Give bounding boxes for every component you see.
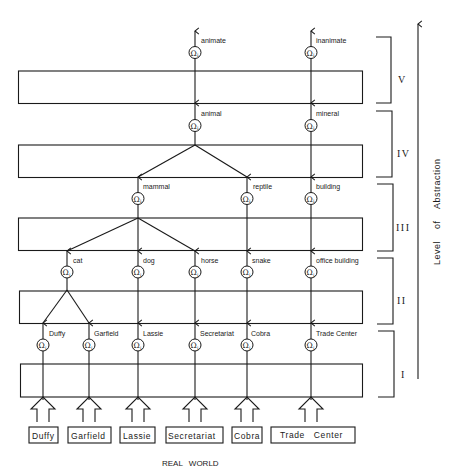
label-snake: snake: [252, 257, 271, 264]
object-lassie: Lassie: [123, 431, 151, 441]
omega-node-I-cobra: Ωi: [241, 339, 253, 351]
label-animal: animal: [201, 110, 222, 117]
abstraction-hierarchy-diagram: Ωi Ωi Ωi Ωi Ωi Ωi Ωi Ωi Ωi Ωi Ωi Ωi Ωi Ω…: [0, 0, 452, 467]
real-world-objects: Duffy Garfield Lassie Secretariat Cobra …: [29, 427, 355, 443]
object-trade-center: Trade Center: [280, 430, 343, 440]
real-world-label: REAL WORLD: [162, 459, 219, 467]
abstraction-axis: Level of Abstraction: [418, 24, 442, 379]
input-arrow-icon: [183, 397, 207, 422]
label-office-building: office building: [316, 257, 359, 265]
omega-nodes: Ωi Ωi Ωi Ωi Ωi Ωi Ωi Ωi Ωi Ωi Ωi Ωi Ωi Ω…: [37, 47, 317, 352]
input-arrows: [31, 397, 323, 422]
label-inanimate: inanimate: [316, 37, 346, 44]
level-label-III: III: [396, 222, 411, 233]
bracket-III: [377, 184, 393, 251]
svg-text:Ω: Ω: [134, 268, 140, 277]
omega-node-I-trade-center: Ωi: [305, 339, 317, 351]
input-arrow-icon: [235, 397, 259, 422]
object-secretariat: Secretariat: [168, 431, 216, 441]
label-cobra: Cobra: [251, 330, 270, 337]
omega-node-I-garfield: Ωi: [83, 339, 95, 351]
level-label-IV: IV: [397, 148, 411, 159]
input-arrow-icon: [77, 397, 101, 422]
omega-node-III-reptile: Ωi: [241, 193, 253, 205]
label-dog: dog: [143, 257, 155, 265]
object-garfield: Garfield: [71, 431, 106, 441]
svg-text:Ω: Ω: [191, 341, 197, 350]
label-mammal: mammal: [143, 183, 170, 190]
label-garfield: Garfield: [94, 330, 119, 337]
omega-node-I-duffy: Ωi: [37, 339, 49, 351]
omega-node-II-cat: Ωi: [61, 266, 73, 278]
omega-node-II-snake: Ωi: [241, 266, 253, 278]
svg-text:Ω: Ω: [307, 49, 313, 58]
omega-node-V-inanimate: Ωi: [305, 47, 317, 59]
object-cobra: Cobra: [234, 431, 260, 441]
bracket-I: [378, 331, 394, 397]
object-duffy: Duffy: [32, 431, 55, 441]
bracket-IV: [376, 111, 392, 177]
label-horse: horse: [201, 257, 219, 264]
omega-node-IV-mineral: Ωi: [305, 120, 317, 132]
label-secretariat: Secretariat: [200, 330, 234, 337]
label-reptile: reptile: [253, 183, 272, 191]
svg-text:Ω: Ω: [39, 341, 45, 350]
node-labels: Duffy Garfield Lassie Secretariat Cobra …: [49, 37, 359, 338]
level-label-I: I: [401, 369, 406, 380]
omega-node-II-office-building: Ωi: [305, 266, 317, 278]
svg-text:Ω: Ω: [191, 122, 197, 131]
svg-text:Ω: Ω: [63, 268, 69, 277]
omega-node-V-animate: Ωi: [189, 47, 201, 59]
label-animate: animate: [201, 37, 226, 44]
input-arrow-icon: [31, 397, 55, 422]
bracket-V: [376, 37, 391, 103]
svg-text:Ω: Ω: [85, 341, 91, 350]
input-arrow-icon: [299, 397, 323, 422]
svg-text:Ω: Ω: [134, 195, 140, 204]
label-trade-center: Trade Center: [316, 330, 358, 337]
svg-text:Ω: Ω: [307, 341, 313, 350]
svg-text:Ω: Ω: [243, 195, 249, 204]
level-label-II: II: [397, 295, 407, 306]
omega-node-II-horse: Ωi: [189, 266, 201, 278]
omega-node-IV-animal: Ωi: [189, 120, 201, 132]
label-lassie: Lassie: [143, 330, 163, 337]
svg-text:Ω: Ω: [134, 341, 140, 350]
svg-text:Ω: Ω: [243, 341, 249, 350]
omega-node-I-lassie: Ωi: [132, 339, 144, 351]
level-brackets: [376, 37, 394, 397]
svg-text:Ω: Ω: [307, 122, 313, 131]
svg-text:Ω: Ω: [243, 268, 249, 277]
svg-text:Ω: Ω: [191, 268, 197, 277]
bracket-II: [377, 258, 393, 324]
svg-text:Ω: Ω: [191, 49, 197, 58]
label-duffy: Duffy: [49, 330, 66, 338]
omega-node-I-secretariat: Ωi: [189, 339, 201, 351]
label-mineral: mineral: [316, 110, 339, 117]
svg-text:Ω: Ω: [307, 268, 313, 277]
level-label-V: V: [398, 74, 407, 85]
svg-text:Ω: Ω: [307, 195, 313, 204]
omega-node-III-building: Ωi: [305, 193, 317, 205]
label-cat: cat: [73, 257, 82, 264]
axis-label: Level of Abstraction: [432, 158, 442, 265]
level-labels: V IV III II I: [396, 74, 411, 380]
label-building: building: [316, 183, 340, 191]
input-arrow-icon: [126, 397, 150, 422]
omega-node-III-mammal: Ωi: [132, 193, 144, 205]
omega-node-II-dog: Ωi: [132, 266, 144, 278]
